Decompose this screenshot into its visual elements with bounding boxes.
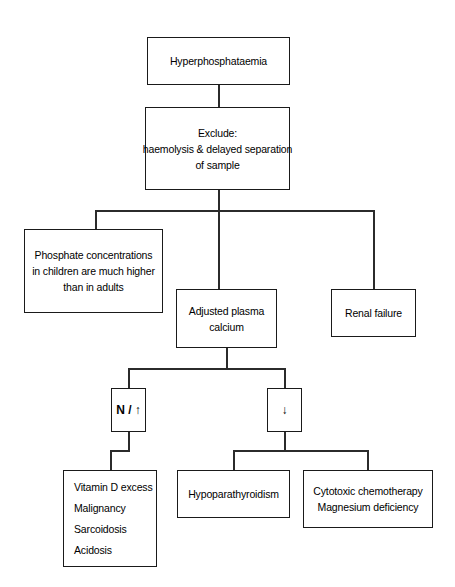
connector-bus-to-adjusted-calcium xyxy=(218,210,220,290)
connector-normal-high-stem xyxy=(128,432,130,451)
node-hyperphosphataemia-line-1: Hyperphosphataemia xyxy=(170,53,267,69)
connector-low-bus xyxy=(233,450,368,452)
node-calcium-normal-or-high-label: N / ↑ xyxy=(116,402,141,418)
connector-calcium-stem xyxy=(226,348,228,369)
node-hypoparathyroidism[interactable]: Hypoparathyroidism xyxy=(177,470,290,518)
node-high-calcium-causes-item-4: Acidosis xyxy=(74,540,112,561)
node-paediatric-note-line-2: in children are much higher xyxy=(32,263,155,279)
connector-bus-to-paediatric-note xyxy=(95,210,97,230)
node-high-calcium-causes-item-1: Vitamin D excess xyxy=(74,477,153,498)
node-hyperphosphataemia[interactable]: Hyperphosphataemia xyxy=(147,37,290,85)
connector-calcium-bus xyxy=(128,368,285,370)
node-exclude-line-3: of sample xyxy=(195,157,239,173)
node-calcium-low-label: ↓ xyxy=(282,402,288,418)
connector-normal-high-jog xyxy=(110,450,130,452)
flowchart-canvas: Hyperphosphataemia Exclude: haemolysis &… xyxy=(0,0,455,587)
connector-bus-to-normal-high xyxy=(128,368,130,389)
node-high-calcium-causes-item-2: Malignancy xyxy=(74,498,126,519)
connector-root-to-exclude xyxy=(218,85,220,107)
node-hypoparathyroidism-line-1: Hypoparathyroidism xyxy=(188,486,279,502)
node-paediatric-note-line-3: than in adults xyxy=(63,279,123,295)
node-paediatric-note-line-1: Phosphate concentrations xyxy=(35,247,153,263)
node-paediatric-note[interactable]: Phosphate concentrations in children are… xyxy=(24,229,163,313)
node-adjusted-plasma-calcium-line-2: calcium xyxy=(209,319,244,335)
connector-low-to-hypoparathyroidism xyxy=(233,450,235,471)
node-renal-failure-line-1: Renal failure xyxy=(345,305,402,321)
node-calcium-low[interactable]: ↓ xyxy=(267,388,302,432)
node-renal-failure[interactable]: Renal failure xyxy=(331,289,416,337)
node-high-calcium-causes-item-3: Sarcoidosis xyxy=(74,519,127,540)
node-other-low-calcium-causes-item-2: Magnesium deficiency xyxy=(318,499,419,515)
node-exclude-line-1: Exclude: xyxy=(198,125,237,141)
connector-bus-to-low xyxy=(284,368,286,389)
node-other-low-calcium-causes[interactable]: Cytotoxic chemotherapy Magnesium deficie… xyxy=(303,470,433,528)
connector-low-stem xyxy=(284,432,286,451)
connector-exclude-stem xyxy=(218,190,220,211)
node-adjusted-plasma-calcium-line-1: Adjusted plasma xyxy=(189,303,264,319)
connector-bus-to-renal-failure xyxy=(373,210,375,290)
connector-normal-high-to-causes xyxy=(110,450,112,471)
node-calcium-normal-or-high[interactable]: N / ↑ xyxy=(111,388,146,432)
node-exclude[interactable]: Exclude: haemolysis & delayed separation… xyxy=(145,107,290,190)
connector-low-to-other-causes xyxy=(367,450,369,471)
node-other-low-calcium-causes-item-1: Cytotoxic chemotherapy xyxy=(313,483,422,499)
node-exclude-line-2: haemolysis & delayed separation xyxy=(143,141,292,157)
connector-level2-bus xyxy=(95,210,374,212)
node-high-calcium-causes[interactable]: Vitamin D excess Malignancy Sarcoidosis … xyxy=(63,470,157,567)
node-adjusted-plasma-calcium[interactable]: Adjusted plasma calcium xyxy=(176,289,277,348)
